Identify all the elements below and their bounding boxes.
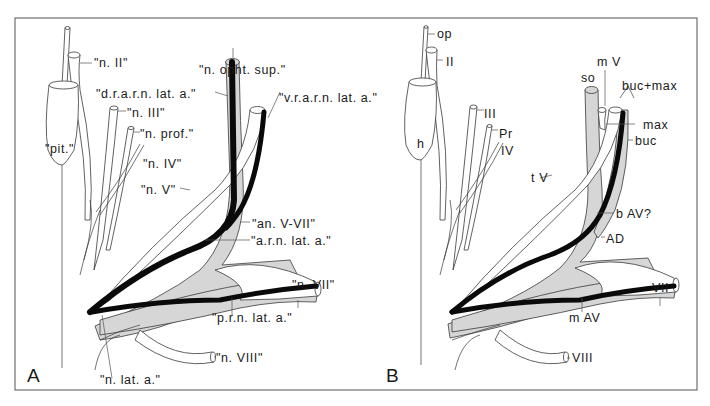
label-buc: buc [635,134,657,148]
label-d-r-a-r-n: "d.r.a.r.n. lat. a." [96,87,196,101]
label-a-r-n: "a.r.n. lat. a." [251,234,331,248]
label-h: h [417,137,425,151]
label-p-r-n: "p.r.n. lat. a." [212,311,292,325]
label-n-VIII: "n. VIII" [216,351,263,365]
anatomical-diagram: "n. II" "n. opht. sup." "d.r.a.r.n. lat.… [0,0,710,406]
panel-b: op II m V so buc+max max buc h III Pr IV… [386,26,679,386]
label-buc-max: buc+max [622,79,677,93]
nerve-VIII-a [135,330,214,364]
panel-letter-a: A [27,365,40,386]
label-tV: t V [531,171,548,185]
label-an-V-VII: "an. V-VII" [252,217,315,231]
label-mAV: m AV [569,311,600,325]
panel-a: "n. II" "n. opht. sup." "d.r.a.r.n. lat.… [27,27,377,388]
label-op: op [437,27,452,41]
label-n-opht-sup: "n. opht. sup." [199,63,286,77]
label-so: so [581,71,595,85]
label-II: II [446,55,454,69]
label-n-VII: "n. VII" [292,278,335,292]
label-AD: AD [606,232,625,246]
label-bAV: b AV? [616,207,651,221]
label-n-V: "n. V" [141,183,176,197]
nerve-VIII-b [495,330,567,364]
panel-letter-b: B [386,365,399,386]
label-mV: m V [597,55,621,69]
label-v-r-a-r-n: "v.r.a.r.n. lat. a." [279,91,377,105]
label-Pr: Pr [499,127,513,141]
label-pit: "pit." [45,142,74,156]
label-III: III [484,107,496,121]
label-n-prof: "n. prof." [140,127,194,141]
label-VII: VII [652,281,669,295]
label-n-III: "n. III" [127,106,165,120]
label-n-IV: "n. IV" [143,157,182,171]
label-max: max [643,118,669,132]
label-VIII: VIII [572,351,593,365]
label-n-II: "n. II" [94,56,128,70]
nerve-III [94,108,118,270]
label-IV: IV [501,144,514,158]
label-n-lat-a: "n. lat. a." [100,373,161,387]
